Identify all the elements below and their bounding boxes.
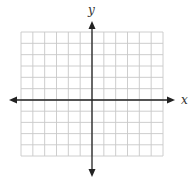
y-axis-up-arrow-icon xyxy=(89,21,96,29)
coordinate-plane: y x xyxy=(0,0,192,183)
y-axis xyxy=(89,21,96,177)
y-axis-down-arrow-icon xyxy=(89,169,96,177)
y-axis-label: y xyxy=(87,3,95,17)
x-axis-right-arrow-icon xyxy=(167,97,175,104)
x-axis-label: x xyxy=(181,93,188,107)
x-axis-left-arrow-icon xyxy=(9,97,17,104)
